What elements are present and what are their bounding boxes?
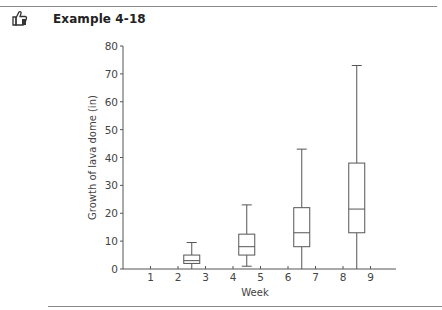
x-tick-label: 8	[340, 271, 347, 283]
y-tick-label: 50	[105, 124, 118, 136]
y-tick-label: 0	[111, 263, 118, 275]
chart-boxes	[184, 66, 365, 269]
y-tick-label: 40	[105, 152, 118, 164]
y-tick-label: 20	[105, 207, 118, 219]
y-axis-title: Growth of lava dome (in)	[87, 95, 98, 220]
chart-axes	[120, 46, 396, 269]
box-plot-box-1	[184, 243, 200, 269]
x-tick-label: 4	[230, 271, 237, 283]
chart-labels: 01020304050607080123456789WeekGrowth of …	[87, 40, 374, 298]
x-tick-label: 9	[367, 271, 374, 283]
x-tick-label: 7	[312, 271, 319, 283]
y-tick-label: 10	[105, 235, 118, 247]
y-tick-label: 80	[105, 40, 118, 52]
x-tick-label: 6	[285, 271, 292, 283]
x-tick-label: 2	[175, 271, 182, 283]
bottom-divider	[48, 306, 442, 307]
box-plot-box-2	[239, 205, 255, 266]
box-plot-chart: 01020304050607080123456789WeekGrowth of …	[0, 0, 442, 310]
x-tick-label: 5	[257, 271, 264, 283]
y-tick-label: 70	[105, 68, 118, 80]
box-plot-box-4	[349, 66, 365, 269]
x-tick-label: 1	[147, 271, 154, 283]
y-tick-label: 60	[105, 96, 118, 108]
x-axis-title: Week	[241, 287, 269, 298]
y-tick-label: 30	[105, 179, 118, 191]
box-plot-box-3	[294, 149, 310, 269]
x-tick-label: 3	[202, 271, 209, 283]
